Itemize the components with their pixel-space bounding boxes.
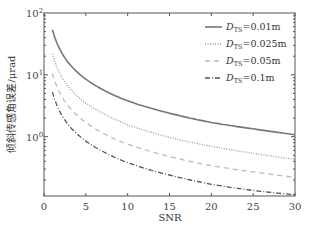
y-axis-label: 倾斜传感角误差/μrad [5,55,17,153]
x-tick-label: 20 [205,201,218,212]
x-tick-label: 30 [289,201,302,212]
y-tick-10: 101 [26,69,43,81]
y-tick-100: 102 [26,7,43,19]
x-tick-label: 15 [163,201,176,212]
y-tick-1: 100 [26,131,43,143]
chart: 051015202530 102 101 100 SNR 倾斜传感角误差/μra… [0,0,309,234]
x-tick-label: 0 [41,201,47,212]
x-axis-label: SNR [158,212,182,223]
x-tick-label: 10 [121,201,134,212]
x-tick-label: 5 [83,201,89,212]
x-tick-label: 25 [247,201,260,212]
